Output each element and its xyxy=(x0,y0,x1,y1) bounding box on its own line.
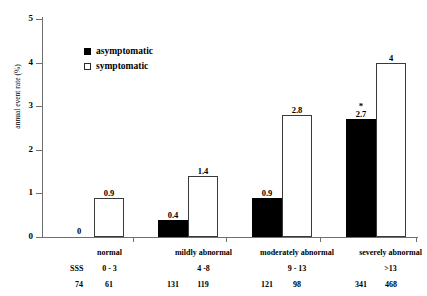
count-severely-abnormal-asymptomatic: 341 xyxy=(346,279,376,290)
x-tick-sep-4 xyxy=(416,238,417,242)
bar-value-normal-symptomatic: 0.9 xyxy=(104,188,115,198)
bar-value-moderately-abnormal-symptomatic: 2.8 xyxy=(292,105,303,115)
chart-figure: annual event rate (%) 0 1 2 3 4 5 asympt… xyxy=(0,0,427,296)
plot-area: 0 0.9 0.4 1.4 0.9 2.8 * 2.7 4 xyxy=(42,19,416,237)
x-tick-sep-3 xyxy=(320,238,321,242)
y-tick-label-1: 1 xyxy=(29,186,34,198)
category-label-severely-abnormal: severely abnormal xyxy=(323,247,427,258)
y-tick-label-3: 3 xyxy=(29,99,34,111)
y-tick-label-0: 0 xyxy=(29,230,34,242)
bar-normal-symptomatic: 0.9 xyxy=(94,198,124,237)
count-moderately-abnormal-symptomatic: 98 xyxy=(282,279,312,290)
bar-group-normal-asymptomatic: 0 xyxy=(64,236,94,237)
x-axis-line xyxy=(42,237,418,238)
bar-value-mildly-abnormal-asymptomatic: 0.4 xyxy=(168,210,179,220)
count-mildly-abnormal-symptomatic: 119 xyxy=(188,279,218,290)
x-tick-sep-1 xyxy=(133,238,134,242)
count-normal-symptomatic: 61 xyxy=(94,279,124,290)
bar-value-normal-asymptomatic: 0 xyxy=(77,226,81,236)
count-severely-abnormal-symptomatic: 468 xyxy=(376,279,406,290)
y-tick-0: 0 xyxy=(36,237,42,238)
bar-moderately-abnormal-symptomatic: 2.8 xyxy=(282,115,312,237)
category-label-row: normal mildly abnormal moderately abnorm… xyxy=(42,247,418,261)
bar-value-mildly-abnormal-symptomatic: 1.4 xyxy=(198,166,209,176)
bar-moderately-abnormal-asymptomatic: 0.9 xyxy=(252,198,282,237)
bar-severely-abnormal-symptomatic: 4 xyxy=(376,63,406,237)
bar-value-severely-abnormal-symptomatic: 4 xyxy=(389,53,393,63)
bar-severely-abnormal-asymptomatic: * 2.7 xyxy=(346,119,376,237)
bar-value-text-severely-abnormal-asymptomatic: 2.7 xyxy=(356,109,367,119)
y-tick-label-5: 5 xyxy=(29,12,34,24)
y-tick-label-4: 4 xyxy=(29,56,34,68)
count-normal-asymptomatic: 74 xyxy=(64,279,94,290)
sample-size-row: 74 61 131 119 121 98 341 468 xyxy=(42,279,418,293)
y-axis-title: annual event rate (%) xyxy=(13,32,22,162)
count-moderately-abnormal-asymptomatic: 121 xyxy=(252,279,282,290)
x-tick-sep-2 xyxy=(226,238,227,242)
bar-value-moderately-abnormal-asymptomatic: 0.9 xyxy=(262,188,273,198)
bar-value-severely-abnormal-asymptomatic: * 2.7 xyxy=(356,103,367,119)
sss-range-severely-abnormal: >13 xyxy=(323,263,427,274)
y-tick-label-2: 2 xyxy=(29,143,34,155)
bar-mildly-abnormal-symptomatic: 1.4 xyxy=(188,176,218,237)
bar-mildly-abnormal-asymptomatic: 0.4 xyxy=(158,220,188,237)
count-mildly-abnormal-asymptomatic: 131 xyxy=(158,279,188,290)
sss-range-row: 0 - 3 4 -8 9 - 13 >13 xyxy=(42,263,418,277)
